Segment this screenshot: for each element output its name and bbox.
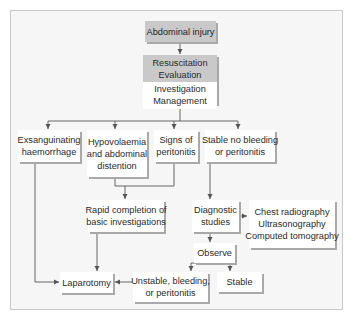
node-exsanguinating: Exsanguinating haemorrhage bbox=[18, 130, 80, 162]
node-label: Chest radiography bbox=[254, 206, 329, 218]
node-signs-peritonitis: Signs of peritonitis bbox=[154, 130, 198, 162]
node-label: Signs of bbox=[159, 134, 192, 146]
node-label: Hypovolaemia bbox=[88, 136, 146, 148]
node-abdominal-injury: Abdominal injury bbox=[145, 21, 216, 42]
node-label: Investigation bbox=[143, 83, 217, 95]
node-laparotomy: Laparotomy bbox=[60, 272, 113, 293]
node-rapid-completion: Rapid completion of basic investigations bbox=[88, 200, 164, 232]
node-label: studies bbox=[201, 216, 230, 228]
node-label: Laparotomy bbox=[62, 277, 111, 289]
node-label: Stable no bleeding bbox=[202, 134, 278, 146]
node-label: Diagnostic bbox=[194, 204, 237, 216]
node-imaging: Chest radiography Ultrasonography Comput… bbox=[249, 200, 335, 248]
node-label: or peritonitis bbox=[215, 146, 265, 158]
node-label: Observe bbox=[197, 247, 232, 259]
node-label: Management bbox=[143, 95, 217, 107]
node-stable-no-bleeding: Stable no bleeding or peritonitis bbox=[205, 130, 275, 162]
node-label: peritonitis bbox=[156, 146, 195, 158]
node-label: Ultrasonography bbox=[258, 218, 325, 230]
node-resuscitation-header: Resuscitation Evaluation bbox=[143, 55, 217, 82]
node-observe: Observe bbox=[194, 243, 235, 263]
node-resuscitation-body: Investigation Management bbox=[143, 82, 217, 109]
node-label: Stable bbox=[226, 276, 252, 288]
node-label: Computed tomography bbox=[245, 230, 338, 242]
node-diagnostic-studies: Diagnostic studies bbox=[192, 200, 239, 232]
node-label: Rapid completion of bbox=[85, 204, 166, 216]
node-label: basic investigations bbox=[86, 216, 166, 228]
node-stable: Stable bbox=[217, 272, 262, 292]
node-label: distention bbox=[97, 160, 136, 172]
node-resuscitation: Resuscitation Evaluation Investigation M… bbox=[143, 55, 217, 104]
node-label: Unstable, bleeding, bbox=[131, 275, 210, 287]
node-label: or peritonitis bbox=[145, 287, 195, 299]
node-label: Evaluation bbox=[143, 69, 217, 81]
node-label: Exsanguinating bbox=[18, 134, 81, 146]
node-label: Resuscitation bbox=[143, 57, 217, 69]
node-label: Abdominal injury bbox=[147, 26, 215, 38]
node-label: haemorrhage bbox=[22, 146, 77, 158]
node-hypovolaemia: Hypovolaemia and abdominal distention bbox=[87, 130, 147, 177]
node-label: and abdominal bbox=[87, 148, 147, 160]
node-unstable: Unstable, bleeding, or peritonitis bbox=[133, 272, 208, 302]
